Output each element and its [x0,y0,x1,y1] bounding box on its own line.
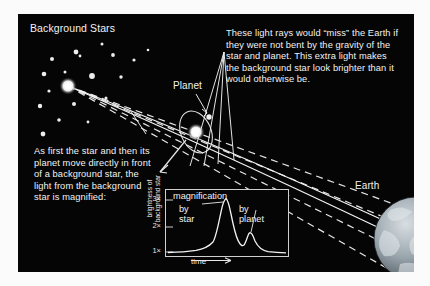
source-background-star [64,82,71,89]
magnification-explanation-text: As first the star and then its planet mo… [34,146,154,204]
planet-label: Planet [173,80,202,91]
y-tick-3x: 3× [139,194,161,203]
chart-x-axis-label: time [191,257,206,266]
background-stars-label: Background Stars [30,22,115,34]
earth-label: Earth [355,180,379,191]
ray-explanation-text: These light rays would “miss” the Earth … [226,28,402,86]
planet-body [206,114,211,119]
chart-annotation-by-planet: by planet [239,204,264,224]
chart-title: magnification [173,191,227,201]
light-curve-chart: brightness of background star 3× 2× 1× [139,187,299,272]
y-axis-ticks [166,200,173,252]
figure-root: Background Stars These light rays would … [0,0,430,286]
y-tick-1x: 1× [139,246,161,255]
chart-annotation-by-star: by star [179,204,194,224]
earth-planet [374,197,414,272]
motion-arrow [160,140,186,173]
time-arrow-icon [191,257,237,264]
diagram-panel: Background Stars These light rays would … [18,14,414,272]
planet-leader-line [196,94,207,113]
y-tick-2x: 2× [139,221,161,230]
